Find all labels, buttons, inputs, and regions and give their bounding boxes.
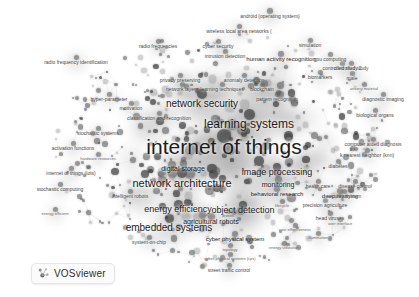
term-label: blockchain	[250, 87, 274, 92]
vosviewer-logo-icon	[37, 267, 50, 280]
term-label: network architecture	[132, 178, 231, 189]
term-label: stochastic systems	[77, 131, 119, 136]
vosviewer-map-canvas[interactable]: internet of thingslearning systemsnetwor…	[0, 0, 419, 297]
term-label: stochastic computing	[37, 187, 84, 192]
term-label: hardware resources	[80, 157, 115, 161]
term-label: energy efficient	[41, 212, 68, 216]
term-label-layer: internet of thingslearning systemsnetwor…	[0, 0, 419, 297]
term-label: activation functions	[52, 146, 95, 151]
term-label: precision agriculture	[303, 203, 348, 208]
term-label: deep learning	[322, 193, 358, 199]
term-label: android (operating system)	[240, 14, 299, 19]
term-label: energy utilization	[269, 246, 299, 250]
term-label: agricultural robots	[183, 218, 239, 225]
term-label: internet of things (iots)	[46, 171, 95, 176]
term-label: privacy preserving	[160, 78, 201, 83]
term-label: digital storage	[161, 165, 205, 172]
term-label: network layers	[166, 87, 198, 92]
term-label: computer aided diagnosis	[345, 142, 402, 147]
term-label: health care	[306, 184, 331, 189]
term-label: motivation	[120, 106, 143, 111]
term-label: biological organs	[356, 113, 394, 118]
term-label: head viruses	[316, 216, 344, 221]
term-label: anomaly detection	[224, 78, 265, 83]
term-label: wireless local area networks (	[206, 29, 272, 34]
term-label: intelligent robots	[112, 194, 148, 199]
term-label: biomarkers	[308, 75, 333, 80]
term-label: cyber security	[203, 44, 234, 49]
term-label: cyber physical system	[206, 236, 265, 242]
term-label: classification and recognition	[127, 116, 191, 121]
term-label: simulation	[299, 43, 322, 48]
term-label: user interface	[328, 222, 352, 226]
term-label: street traffic control	[208, 268, 250, 273]
term-label: system-on-chip	[132, 240, 166, 245]
term-label: controlled study	[333, 66, 368, 71]
term-label: k nearest neighbor (knn)	[340, 153, 394, 158]
term-label: drones	[222, 214, 234, 218]
term-label: diabetes	[329, 164, 348, 169]
term-label: pattern recognition	[256, 97, 297, 102]
term-label: gpu computing	[314, 57, 347, 62]
term-label: radio frequency identification	[44, 60, 108, 65]
term-label: cyber-physical systems (cps)	[204, 257, 255, 261]
term-label: energy efficiency	[144, 205, 211, 214]
term-label: learning techniques	[200, 87, 243, 92]
vosviewer-logo-label: VOSviewer	[54, 268, 106, 279]
term-label: illumination	[308, 236, 328, 240]
term-label: anxiety material	[350, 87, 378, 91]
term-label: internet of things	[146, 136, 301, 157]
term-label: topology	[222, 248, 237, 252]
term-label: network security	[166, 99, 238, 109]
term-label: controlled study 2	[322, 66, 361, 71]
term-label: human activity recognition	[246, 56, 315, 62]
term-label: hyper-parameter	[91, 97, 128, 102]
term-label: behavioral research	[251, 191, 304, 197]
term-label: lifecycle	[275, 204, 289, 208]
term-label: diagnostic imaging	[362, 97, 403, 102]
term-label: embedded systems	[126, 223, 213, 233]
term-label: radio frequencies	[139, 44, 177, 49]
term-label: learning systems	[204, 118, 294, 130]
term-label: image processing	[242, 168, 313, 177]
term-label: cost effectiveness	[279, 228, 311, 232]
term-label: security system	[327, 194, 361, 199]
term-label: disease control	[338, 184, 372, 189]
vosviewer-logo-badge[interactable]: VOSviewer	[31, 263, 115, 284]
term-label: intrusion detection	[205, 54, 246, 59]
term-label: male	[347, 76, 358, 81]
term-label: monitoring	[262, 181, 295, 188]
term-label: object detection	[211, 206, 274, 215]
